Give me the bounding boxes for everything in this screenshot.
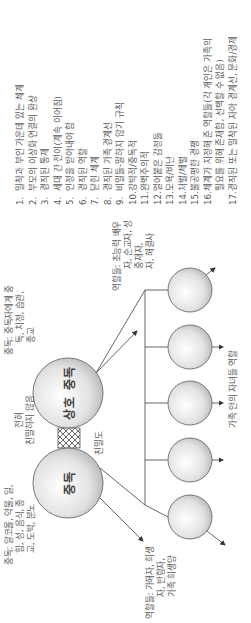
- characteristics-list: 1.밀착과 부인 가운데 있는 체계 2.부모의 이상화 연결의 환상 3.경직…: [14, 36, 239, 205]
- intimacy-label: 친밀도: [94, 432, 105, 455]
- co-addiction-note: 중독: 중독자에게 중 독, 치정, 습관, 종교: [4, 285, 37, 355]
- addiction-roles-line2: 자, 반항자,: [156, 546, 167, 619]
- list-item: 4.세대 간 전이(계속 이어짐): [52, 36, 65, 205]
- co-addiction-roles-line2: 자, 순교자, 성: [123, 220, 134, 291]
- list-item: 11.완벽주의적: [139, 36, 152, 205]
- children-roles-caption: 가족 안의 자녀들 역할: [228, 350, 239, 428]
- intimacy-bridge: [58, 428, 80, 448]
- no-intimacy-line2: 친밀하지 않음: [25, 396, 36, 445]
- list-item: 16.체계가 지정해 준 역할들(각 개인은 가족의: [202, 36, 215, 205]
- list-item: 10.강박적/중독적: [127, 36, 140, 205]
- co-addiction-note-line3: 종교: [26, 285, 37, 355]
- list-item: 7.닫힌 체계: [89, 36, 102, 205]
- no-intimacy-label: 전혀 친밀하지 않음: [14, 396, 36, 445]
- no-intimacy-line1: 전혀: [14, 396, 25, 445]
- co-addiction-roles-line1: 역할들: 초능력 배우: [112, 220, 123, 291]
- addiction-note-line3: 교, 도박, 분노: [26, 485, 37, 565]
- addiction-roles-line3: 가족 희생양: [167, 546, 178, 619]
- addiction-roles-line1: 역할들: 가해자, 희생: [145, 546, 156, 619]
- co-addiction-roles: 역할들: 초능력 배우 자, 순교자, 성 중재자, 자, 해결사: [112, 220, 156, 291]
- list-item: 15.불공평한 경쟁: [189, 36, 202, 205]
- list-item: 6.경직된 역할: [77, 36, 90, 205]
- co-addiction-note-line1: 중독: 중독자에게 중: [4, 285, 15, 355]
- list-item: 9.비밀들-말하지 않기 규칙: [114, 36, 127, 205]
- addiction-note: 중독: 알코올, 약물, 일, 힘, 성, 음식, 종 교, 도박, 분노: [4, 485, 37, 565]
- addiction-note-line2: 힘, 성, 음식, 종: [15, 485, 26, 565]
- list-item: 17.경직된 또는 밀착된 자아 경계선, 문화/경제: [227, 36, 240, 205]
- addiction-roles: 역할들: 가해자, 희생 자, 반항자, 가족 희생양: [145, 546, 178, 619]
- list-item: 13.모욕/비난: [164, 36, 177, 205]
- co-addiction-roles-line4: 자, 해결사: [145, 220, 156, 291]
- family-system-diagram: 상호 중독 중독 친밀도 전혀 친밀하지 않음 중독: 중독자에게 중 독, 치…: [0, 0, 251, 623]
- co-addiction-note-line2: 독, 치정, 습관,: [15, 285, 26, 355]
- list-item: 3.경직된 통제: [39, 36, 52, 205]
- co-addiction-roles-line3: 중재자,: [134, 220, 145, 291]
- list-item: 1.밀착과 부인 가운데 있는 체계: [14, 36, 27, 205]
- children-circles: [168, 268, 212, 539]
- list-item: 2.부모의 이상화 연결의 환상: [27, 36, 40, 205]
- list-item: 8.경직된 가족 경계선: [102, 36, 115, 205]
- list-item-continuation: 필요를 위해 존재함, 선택할 수 없음): [214, 36, 227, 205]
- list-item: 14.처벌/체벌: [177, 36, 190, 205]
- addiction-note-line1: 중독: 알코올, 약물, 일,: [4, 485, 15, 565]
- co-addiction-label: 상호 중독: [60, 363, 77, 423]
- addiction-label: 중독: [60, 453, 77, 513]
- list-item: 5.인정을 받아내야 함: [64, 36, 77, 205]
- list-item: 12.얼어붙은 감정들: [152, 36, 165, 205]
